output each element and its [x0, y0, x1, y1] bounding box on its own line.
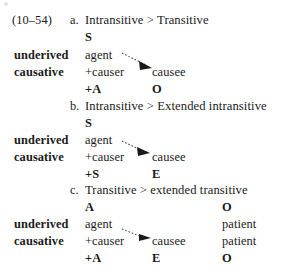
- result-row-c-col3: O: [222, 251, 232, 265]
- example-figure: (10–54) a. Intransitive > Transitive S u…: [0, 0, 284, 274]
- result-row-c-col2: E: [152, 251, 160, 265]
- result-row-c-col1: +A: [85, 251, 101, 265]
- mapping-arrow-c: [0, 0, 284, 274]
